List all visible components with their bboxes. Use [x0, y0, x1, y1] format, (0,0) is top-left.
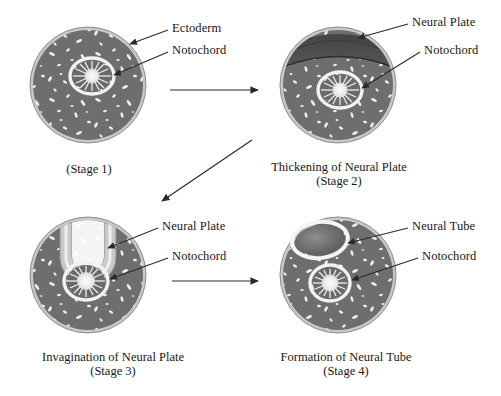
figure-canvas — [0, 0, 501, 396]
label-neural-plate-stage3: Neural Plate — [162, 219, 225, 233]
label-ectoderm-stage1: Ectoderm — [172, 21, 221, 35]
caption-stage-4-line1: Formation of Neural Tube — [248, 350, 444, 364]
label-notochord-stage3: Notochord — [172, 249, 226, 263]
notochord-structure-3 — [64, 262, 108, 300]
label-notochord-stage2: Notochord — [424, 43, 478, 57]
caption-stage-4-line2: (Stage 4) — [248, 364, 444, 378]
neurulation-figure: Ectoderm Notochord Neural Plate Notochor… — [0, 0, 501, 396]
caption-stage-2-line2: (Stage 2) — [248, 174, 430, 188]
label-notochord-stage1: Notochord — [172, 43, 226, 57]
notochord-structure-2 — [318, 72, 362, 108]
caption-stage-3-line1: Invagination of Neural Plate — [0, 350, 226, 364]
caption-stage-4: Formation of Neural Tube (Stage 4) — [248, 350, 444, 379]
leader-ectoderm-1 — [130, 30, 168, 44]
caption-stage-1-line2: (Stage 1) — [0, 162, 178, 176]
leader-neural-plate-2 — [358, 24, 408, 38]
stage-1-illustration — [30, 27, 168, 143]
stage-2-illustration — [275, 24, 420, 143]
stage-4-illustration — [280, 217, 418, 333]
caption-stage-2: Thickening of Neural Plate (Stage 2) — [248, 160, 430, 189]
notochord-structure-4 — [310, 265, 350, 301]
label-notochord-stage4: Notochord — [422, 249, 476, 263]
label-neural-tube-stage4: Neural Tube — [412, 219, 475, 233]
notochord-structure-1 — [70, 58, 114, 94]
caption-stage-3: Invagination of Neural Plate (Stage 3) — [0, 350, 226, 379]
caption-stage-1: (Stage 1) — [0, 162, 178, 176]
caption-stage-3-line2: (Stage 3) — [0, 364, 226, 378]
label-neural-plate-stage2: Neural Plate — [412, 15, 475, 29]
caption-stage-2-line1: Thickening of Neural Plate — [248, 160, 430, 174]
stage-3-illustration — [30, 216, 168, 333]
